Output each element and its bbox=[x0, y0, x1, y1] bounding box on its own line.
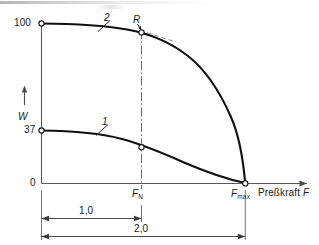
data-point-markers bbox=[39, 21, 248, 186]
y-axis-label: W bbox=[18, 112, 28, 122]
x-axis-label: Preßkraft F bbox=[258, 188, 309, 198]
x-marker-label-fmax: Fmax bbox=[231, 189, 250, 199]
dim-arrow-1-right bbox=[134, 216, 142, 221]
x-marker-fmax-subscript: max bbox=[237, 193, 250, 200]
dim-arrow-2-right bbox=[238, 234, 246, 239]
dimension-label-1: 1,0 bbox=[79, 206, 93, 216]
y-tick-label-100: 100 bbox=[14, 18, 31, 28]
x-axis-label-text: Preßkraft bbox=[258, 187, 300, 198]
axes-group bbox=[22, 21, 307, 187]
x-axis-arrowhead bbox=[300, 181, 308, 187]
curve-label-2: 2 bbox=[104, 13, 110, 23]
marker-curve2-origin bbox=[39, 21, 44, 26]
x-marker-label-fn: FN bbox=[132, 189, 143, 199]
x-axis-label-symbol: F bbox=[303, 187, 309, 198]
tangent-line-at-r bbox=[140, 31, 176, 43]
dim-arrow-1-left bbox=[42, 216, 50, 221]
dim-arrow-2-left bbox=[42, 234, 50, 239]
curve-label-1: 1 bbox=[102, 117, 108, 127]
marker-curve1-origin bbox=[39, 128, 44, 133]
y-tick-label-0: 0 bbox=[30, 178, 36, 188]
chart-figure: 100 37 0 W 2 1 R FN Fmax Preßkraft F 1,0… bbox=[0, 0, 319, 245]
curve-1 bbox=[42, 131, 246, 184]
dimension-label-2: 2,0 bbox=[134, 224, 148, 234]
y-axis-label-arrowhead bbox=[22, 86, 27, 93]
x-marker-fn-subscript: N bbox=[138, 193, 143, 200]
y-tick-label-37: 37 bbox=[24, 125, 35, 135]
chart-canvas bbox=[0, 0, 319, 245]
curve-2 bbox=[42, 24, 246, 184]
marker-curve1-at-fn bbox=[139, 145, 144, 150]
point-label-r: R bbox=[133, 15, 140, 25]
marker-fmax bbox=[243, 181, 248, 186]
